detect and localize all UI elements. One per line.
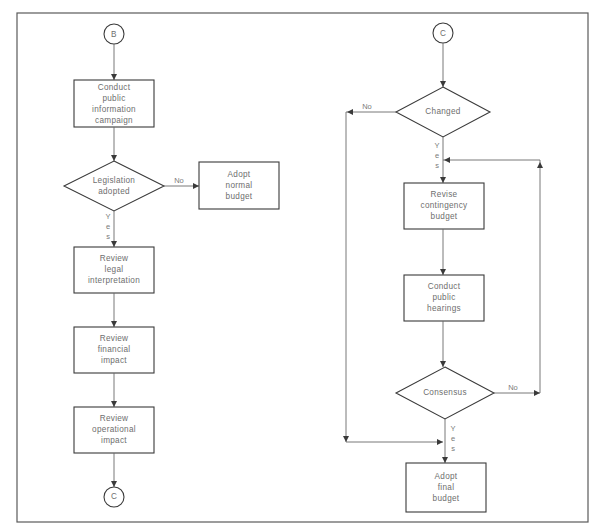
arrowhead-left-icon [444, 157, 450, 163]
node-revise-contingency-label: Revise contingency budget [404, 189, 484, 222]
arrowhead-right-icon [437, 439, 443, 445]
arrowhead-down-icon [440, 269, 446, 275]
arrowhead-down-icon [440, 81, 446, 87]
connector-b-label: B [108, 29, 120, 40]
edge-label-changed-no: No [360, 102, 374, 112]
edge-label-legislation-yes: Y e s [104, 212, 112, 242]
node-review-operational-label: Review operational impact [74, 413, 154, 446]
node-adopt-normal-budget-label: Adopt normal budget [199, 169, 279, 202]
node-conduct-campaign-label: Conduct public information campaign [74, 82, 154, 126]
node-changed-label: Changed [403, 106, 483, 117]
arrowhead-down-icon [111, 481, 117, 487]
arrowhead-right-icon [534, 390, 540, 396]
arrowhead-down-icon [111, 155, 117, 161]
node-adopt-final-budget-label: Adopt final budget [406, 471, 486, 504]
node-conduct-hearings-label: Conduct public hearings [404, 281, 484, 314]
arrowhead-down-icon [442, 457, 448, 463]
edge-label-changed-yes: Y e s [433, 141, 441, 171]
arrowhead-left-icon [347, 109, 353, 115]
arrowhead-down-icon [111, 401, 117, 407]
arrowhead-down-icon [343, 436, 349, 442]
edge-label-consensus-no: No [506, 383, 520, 393]
arrowhead-down-icon [440, 177, 446, 183]
edge-label-legislation-no: No [172, 176, 186, 186]
node-consensus-label: Consensus [405, 387, 485, 398]
edge-label-consensus-yes: Y e s [449, 424, 457, 454]
connector-c-start-label: C [437, 28, 449, 39]
arrowhead-down-icon [111, 321, 117, 327]
arrowhead-down-icon [440, 361, 446, 367]
node-review-financial-label: Review financial impact [74, 333, 154, 366]
arrowhead-up-icon [537, 162, 543, 168]
connector-c-end-label: C [108, 491, 120, 502]
node-legislation-adopted-label: Legislation adopted [74, 175, 154, 197]
right-flow [343, 23, 543, 512]
arrowhead-down-icon [111, 74, 117, 80]
node-review-legal-label: Review legal interpretation [74, 253, 154, 286]
